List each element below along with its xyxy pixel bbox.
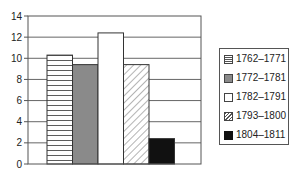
legend-label: 1793–1800 bbox=[236, 110, 286, 122]
legend-swatch-horizontal-lines-icon bbox=[224, 55, 233, 64]
bars bbox=[47, 33, 175, 164]
legend-label: 1782–1791 bbox=[236, 91, 286, 103]
bar-1782–1791 bbox=[98, 33, 124, 164]
legend-item: 1804–1811 bbox=[224, 129, 285, 141]
legend-swatch-white-icon bbox=[224, 93, 233, 102]
legend-label: 1804–1811 bbox=[236, 129, 285, 141]
legend-swatch-gray-icon bbox=[224, 74, 233, 83]
y-tick-label: 14 bbox=[11, 11, 23, 22]
y-tick-label: 4 bbox=[16, 116, 22, 127]
y-axis-ticks: 02468101214 bbox=[11, 11, 28, 170]
legend-item: 1782–1791 bbox=[224, 91, 286, 103]
bar-1762–1771 bbox=[47, 55, 73, 164]
legend-swatch-diagonal-hatch-icon bbox=[224, 112, 233, 121]
bar-1772–1781 bbox=[73, 65, 99, 164]
legend-label: 1772–1781 bbox=[236, 72, 286, 84]
y-tick-label: 12 bbox=[11, 32, 23, 43]
legend: 1762–1771 1772–1781 1782–1791 1793–1800 … bbox=[219, 48, 289, 145]
legend-label: 1762–1771 bbox=[236, 53, 286, 65]
legend-item: 1772–1781 bbox=[224, 72, 286, 84]
legend-item: 1762–1771 bbox=[224, 53, 286, 65]
y-tick-label: 6 bbox=[16, 95, 22, 106]
y-tick-label: 2 bbox=[16, 137, 22, 148]
y-tick-label: 0 bbox=[16, 159, 22, 170]
legend-swatch-black-icon bbox=[224, 131, 233, 140]
y-tick-label: 10 bbox=[11, 53, 23, 64]
bar-1804–1811 bbox=[149, 139, 175, 164]
legend-item: 1793–1800 bbox=[224, 110, 286, 122]
y-tick-label: 8 bbox=[16, 74, 22, 85]
bar-1793–1800 bbox=[124, 65, 150, 164]
